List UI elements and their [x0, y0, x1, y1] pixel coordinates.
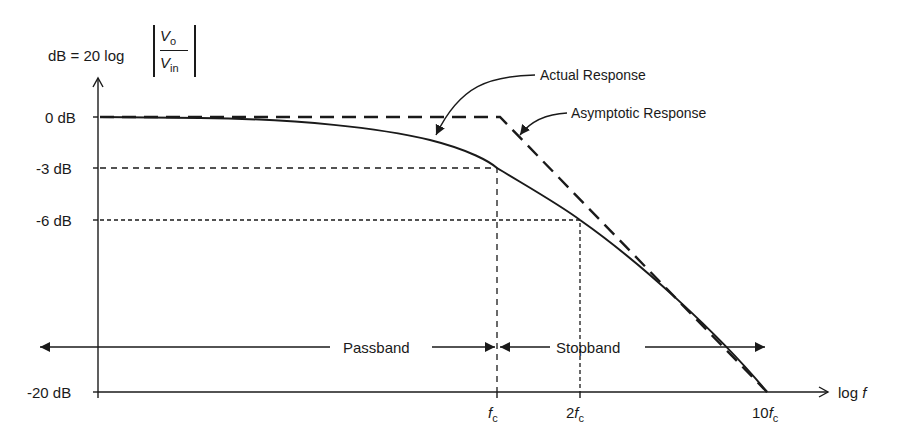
- x-tick-10fc: 10fc: [752, 405, 778, 420]
- y-tick-minus6db: -6 dB: [36, 213, 72, 228]
- y-tick-minus20db: -20 dB: [27, 385, 71, 400]
- y-tick-minus3db: -3 dB: [36, 161, 72, 176]
- y-axis-label: dB = 20 log: [48, 48, 124, 63]
- y-tick-0db: 0 dB: [45, 110, 76, 125]
- bode-plot-graphic: [0, 0, 899, 448]
- abs-bar-left: [153, 25, 155, 77]
- x-tick-fc: fc: [488, 405, 498, 420]
- actual-response-curve: [100, 117, 767, 392]
- asymptotic-response-line: [100, 117, 767, 392]
- actual-response-label: Actual Response: [540, 68, 646, 82]
- abs-bar-right: [194, 25, 196, 77]
- reference-lines: [100, 168, 580, 392]
- x-axis-label: log f: [838, 385, 866, 400]
- passband-label: Passband: [343, 340, 410, 355]
- actual-response-callout-arrow: [436, 75, 535, 135]
- fraction-bar: [160, 50, 188, 51]
- y-axis-formula-prefix: dB = 20 log: [48, 47, 124, 64]
- fraction-denominator: Vin: [160, 55, 179, 70]
- x-tick-2fc: 2fc: [566, 405, 584, 420]
- fraction-numerator: Vo: [160, 28, 176, 43]
- stopband-label: Stopband: [556, 340, 620, 355]
- asymptotic-response-callout-arrow: [520, 113, 567, 135]
- asymptotic-response-label: Asymptotic Response: [571, 106, 706, 120]
- y-axis: [93, 78, 98, 398]
- x-axis: [98, 392, 828, 398]
